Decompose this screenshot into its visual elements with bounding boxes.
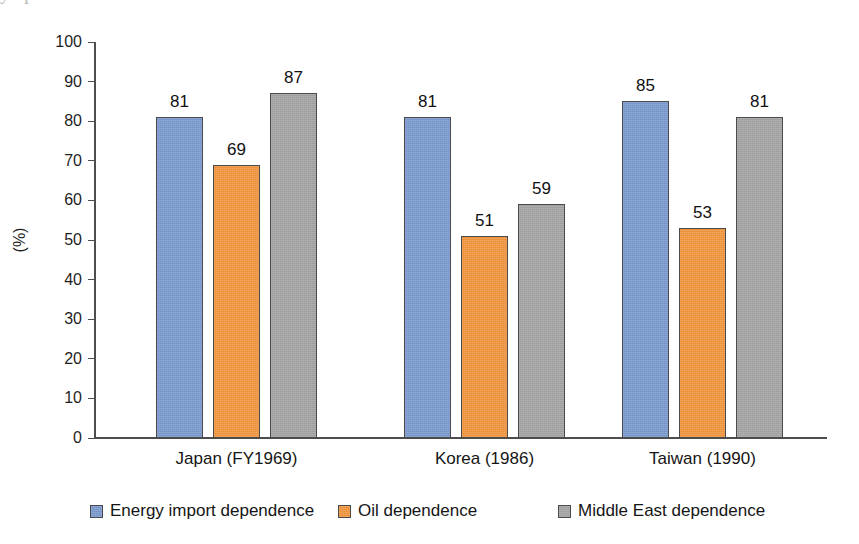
bar-value-label: 81 (150, 93, 210, 110)
legend-swatch-texture (91, 506, 102, 517)
x-axis-category-label: Taiwan (1990) (573, 449, 833, 469)
bar-texture (623, 102, 668, 437)
bar-value-label: 81 (398, 93, 458, 110)
x-axis-category-label: Japan (FY1969) (107, 449, 367, 469)
bar[interactable] (213, 165, 260, 438)
bar-texture (519, 205, 564, 437)
legend-item[interactable]: Oil dependence (338, 500, 477, 522)
legend-item-label: Oil dependence (358, 501, 477, 521)
bar-value-label: 51 (455, 212, 515, 229)
bar-value-label: 69 (207, 141, 267, 158)
y-axis-tick-label: 100 (22, 34, 82, 50)
legend-color-swatch (338, 505, 351, 518)
legend-item[interactable]: Middle East dependence (558, 500, 765, 522)
bar-texture (680, 229, 725, 437)
legend-item[interactable]: Energy import dependence (90, 500, 314, 522)
bar-texture (405, 118, 450, 437)
y-axis-tick-label: 80 (22, 113, 82, 129)
y-axis-tick-label: 30 (22, 311, 82, 327)
bar-chart: 1009080706050403020100 (%) 8169878151598… (0, 0, 859, 544)
legend-item-label: Middle East dependence (578, 501, 765, 521)
bar-value-label: 81 (730, 93, 790, 110)
y-axis-tick-label: 20 (22, 351, 82, 367)
legend-swatch-texture (559, 506, 570, 517)
legend-item-label: Energy import dependence (110, 501, 314, 521)
chart-legend: Energy import dependenceOil dependenceMi… (0, 500, 859, 526)
bar-texture (462, 237, 507, 437)
legend-swatch-texture (339, 506, 350, 517)
y-axis-tick-label: 10 (22, 390, 82, 406)
legend-color-swatch (90, 505, 103, 518)
bar[interactable] (622, 101, 669, 438)
y-axis-tick-label: 90 (22, 74, 82, 90)
bar-value-label: 85 (616, 77, 676, 94)
y-axis-tick-label: 40 (22, 272, 82, 288)
bar-texture (271, 94, 316, 437)
bar-texture (214, 166, 259, 437)
bar[interactable] (736, 117, 783, 438)
y-axis-tick-label: 50 (22, 232, 82, 248)
bar[interactable] (461, 236, 508, 438)
bar-value-label: 53 (673, 204, 733, 221)
bar[interactable] (156, 117, 203, 438)
bar[interactable] (518, 204, 565, 438)
legend-color-swatch (558, 505, 571, 518)
bar[interactable] (404, 117, 451, 438)
y-axis-title: (%) (12, 228, 28, 253)
bar[interactable] (679, 228, 726, 438)
y-axis: 1009080706050403020100 (0, 0, 95, 544)
y-axis-tick-label: 60 (22, 192, 82, 208)
bar-value-label: 87 (264, 69, 324, 86)
bar-texture (157, 118, 202, 437)
plot-area: 816987815159855381 (95, 42, 826, 438)
y-axis-tick-label: 70 (22, 153, 82, 169)
bar-texture (737, 118, 782, 437)
bar[interactable] (270, 93, 317, 438)
y-axis-tick-label: 0 (22, 430, 82, 446)
bar-value-label: 59 (512, 180, 572, 197)
